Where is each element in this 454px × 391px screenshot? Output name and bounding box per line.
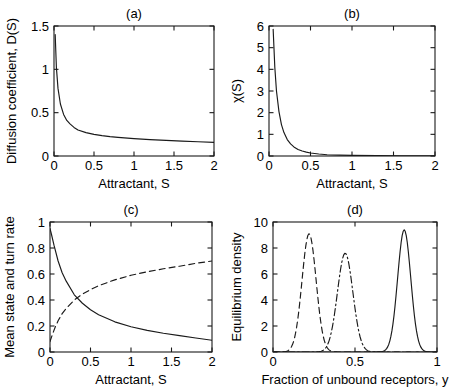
panel-a-yticklabel: 0.5 (31, 105, 49, 120)
panel-a-ylabel: Diffusion coefficient, D(S) (4, 18, 19, 164)
panel-b-xticklabel: 0.5 (301, 158, 319, 173)
panel-d-ylabel: Equilibrium density (229, 232, 244, 342)
panel-c-yticklabel: 0.4 (27, 293, 45, 308)
panel-a-yticklabel: 0 (42, 149, 49, 164)
panel-d-xticklabel: 1 (433, 354, 440, 369)
panel-d: (d)00.510246810Fraction of unbound recep… (227, 196, 454, 391)
panel-a-svg: (a)00.511.5200.511.5Attractant, SDiffusi… (0, 0, 227, 195)
panel-d-yticklabel: 8 (261, 241, 268, 256)
panel-c-svg: (c)00.511.5200.20.40.60.81Attractant, SM… (0, 196, 227, 391)
panel-d-series-solid (273, 230, 437, 352)
panel-d-svg: (d)00.510246810Fraction of unbound recep… (227, 196, 454, 391)
panel-d-title: (d) (347, 202, 363, 217)
panel-b-yticklabel: 2 (257, 105, 264, 120)
panel-a-xticklabel: 2 (210, 158, 217, 173)
panel-a-xticklabel: 1 (130, 158, 137, 173)
panel-a-yticklabel: 1 (42, 62, 49, 77)
panel-b-yticklabel: 4 (257, 62, 264, 77)
panel-c: (c)00.511.5200.20.40.60.81Attractant, SM… (0, 196, 227, 391)
panel-c-yticklabel: 0.6 (27, 267, 45, 282)
panel-c-xticklabel: 0 (46, 354, 53, 369)
panel-b-yticklabel: 0 (257, 149, 264, 164)
panel-a-yticklabel: 1.5 (31, 19, 49, 34)
panel-c-title: (c) (123, 202, 138, 217)
panel-b-yticklabel: 3 (257, 84, 264, 99)
panel-b-xticklabel: 1.5 (384, 158, 402, 173)
panel-d-yticklabel: 0 (261, 345, 268, 360)
panel-b-yticklabel: 5 (257, 40, 264, 55)
panel-c-axes-frame (50, 222, 212, 352)
panel-d-plot-area (273, 230, 437, 352)
panel-d-yticklabel: 4 (261, 293, 268, 308)
panel-c-yticklabel: 1 (38, 215, 45, 230)
panel-a-title: (a) (126, 6, 142, 21)
panel-d-xlabel: Fraction of unbound receptors, y (261, 372, 449, 387)
panel-d-axes-frame (273, 222, 437, 352)
panel-b-ylabel: χ(S) (229, 79, 244, 103)
panel-a-plot-area (55, 35, 214, 143)
panel-a-series-solid (55, 35, 214, 143)
panel-c-yticklabel: 0.2 (27, 319, 45, 334)
panel-a-xticklabel: 1.5 (165, 158, 183, 173)
panel-c-ylabel: Mean state and turn rate (2, 216, 17, 358)
panel-c-yticklabel: 0.8 (27, 241, 45, 256)
panel-d-xticklabel: 0.5 (346, 354, 364, 369)
panel-b-xticklabel: 0 (265, 158, 272, 173)
panel-b-xlabel: Attractant, S (316, 176, 388, 191)
panel-b-axes-frame (269, 26, 435, 156)
panel-d-xticklabel: 0 (269, 354, 276, 369)
panel-d-yticklabel: 2 (261, 319, 268, 334)
panel-b-yticklabel: 6 (257, 19, 264, 34)
panel-b-xticklabel: 2 (431, 158, 438, 173)
panel-b: (b)00.511.520123456Attractant, Sχ(S) (227, 0, 454, 195)
panel-a-xlabel: Attractant, S (98, 176, 170, 191)
panel-b-xticklabel: 1 (348, 158, 355, 173)
panel-b-svg: (b)00.511.520123456Attractant, Sχ(S) (227, 0, 454, 195)
panel-d-series-dashdot (273, 253, 437, 352)
panel-a-xticklabel: 0 (50, 158, 57, 173)
panel-b-plot-area (273, 29, 435, 156)
panel-c-series-dashed (50, 261, 212, 342)
panel-b-yticklabel: 1 (257, 127, 264, 142)
panel-c-xticklabel: 1 (127, 354, 134, 369)
panel-d-yticklabel: 6 (261, 267, 268, 282)
panel-a: (a)00.511.5200.511.5Attractant, SDiffusi… (0, 0, 227, 195)
panel-c-yticklabel: 0 (38, 345, 45, 360)
panel-c-series-solid (50, 229, 212, 341)
panel-c-xticklabel: 2 (208, 354, 215, 369)
panel-c-xticklabel: 1.5 (162, 354, 180, 369)
panel-b-title: (b) (344, 6, 360, 21)
panel-c-xticklabel: 0.5 (81, 354, 99, 369)
panel-a-xticklabel: 0.5 (85, 158, 103, 173)
panel-b-series-solid (273, 29, 435, 156)
panel-d-yticklabel: 10 (254, 215, 268, 230)
panel-c-plot-area (50, 229, 212, 342)
figure-container: (a)00.511.5200.511.5Attractant, SDiffusi… (0, 0, 454, 391)
panel-a-axes-frame (54, 26, 214, 156)
panel-c-xlabel: Attractant, S (95, 372, 167, 387)
